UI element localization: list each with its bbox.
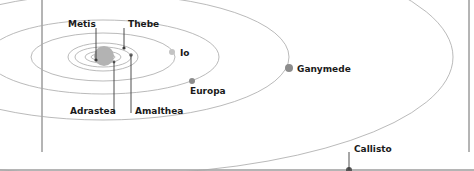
label-europa: Europa	[190, 86, 226, 96]
jupiter-moons-orbit-diagram: Metis Thebe Io Europa Ganymede Adrastea …	[0, 0, 474, 171]
orbit-ganymede	[0, 0, 289, 120]
label-metis: Metis	[68, 19, 96, 29]
label-ganymede: Ganymede	[297, 64, 351, 74]
label-callisto: Callisto	[354, 144, 392, 154]
label-thebe: Thebe	[128, 19, 159, 29]
label-adrastea: Adrastea	[70, 106, 116, 116]
jupiter-planet	[94, 46, 114, 66]
label-io: Io	[180, 48, 190, 58]
moon-ganymede-dot	[285, 64, 293, 72]
label-amalthea: Amalthea	[135, 106, 183, 116]
moon-io-dot	[169, 49, 175, 55]
moon-europa-dot	[189, 78, 195, 84]
